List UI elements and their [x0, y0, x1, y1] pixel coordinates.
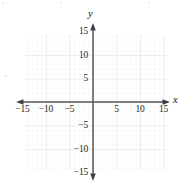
x-tick-label-15: 15 — [155, 105, 173, 115]
x-tick-label--5: −5 — [58, 105, 81, 115]
x-tick-label--15: −15 — [11, 105, 35, 115]
y-axis-down-arrow — [90, 174, 96, 182]
y-tick-label--15: −15 — [56, 168, 88, 178]
y-tick-label--10: −10 — [56, 145, 88, 155]
y-tick-label-5: 5 — [66, 74, 88, 84]
scan-artifact — [2, 2, 4, 4]
y-axis-name: y — [88, 9, 93, 20]
scan-artifact — [60, 2, 62, 4]
y-axis-up-arrow — [90, 23, 96, 31]
x-tick-label--10: −10 — [34, 105, 58, 115]
coordinate-plane-svg — [0, 0, 186, 186]
y-tick-label-15: 15 — [66, 27, 88, 37]
y-tick-label-10: 10 — [66, 51, 88, 61]
coordinate-plane-figure — [0, 0, 186, 186]
scan-artifact — [148, 2, 150, 4]
x-axis-name: x — [173, 95, 178, 106]
x-tick-label-5: 5 — [109, 105, 125, 115]
y-tick-label--5: −5 — [60, 121, 88, 131]
scan-artifact — [5, 75, 7, 77]
x-tick-label-10: 10 — [131, 105, 149, 115]
